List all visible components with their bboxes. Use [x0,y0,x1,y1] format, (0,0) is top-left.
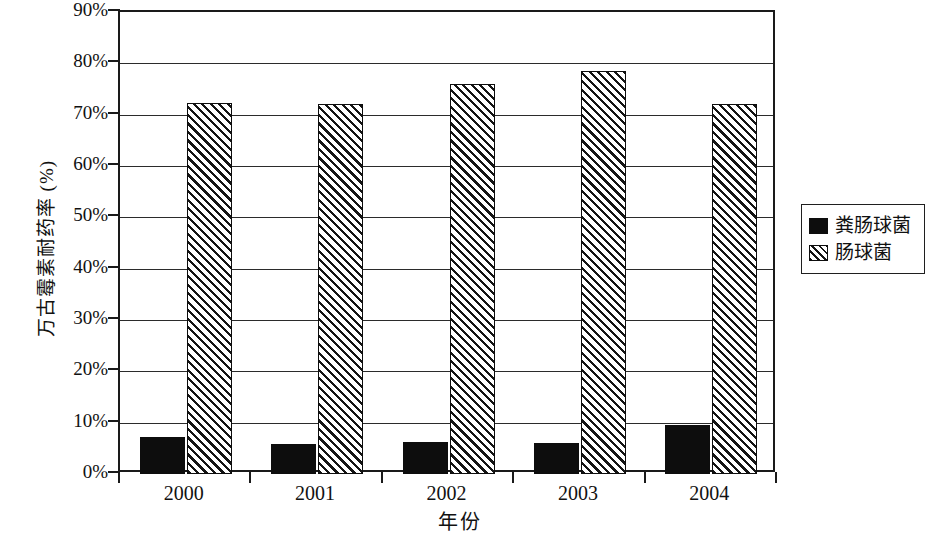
y-axis-tick-label: 0% [46,462,108,481]
y-axis-tick-labels: 0%10%20%30%40%50%60%70%80%90% [40,0,108,537]
bar-肠球菌-2004 [712,104,757,474]
plot-area [118,10,775,472]
y-axis-tick-label: 30% [46,308,108,327]
y-axis-tick-label: 60% [46,154,108,173]
gridline [120,63,773,64]
legend-swatch-hatched-icon [809,245,828,261]
x-axis-tick-label: 2003 [518,482,638,505]
legend-label: 粪肠球菌 [835,216,911,235]
bar-粪肠球菌-2001 [271,444,316,474]
x-axis-tick-label: 2002 [387,482,507,505]
legend-item-粪肠球菌: 粪肠球菌 [809,212,918,239]
legend-item-肠球菌: 肠球菌 [809,239,918,266]
y-axis-tick-label: 10% [46,411,108,430]
bar-chart: 万古霉素耐药率 (%) 0%10%20%30%40%50%60%70%80%90… [0,0,936,537]
x-axis-tick-label: 2001 [255,482,375,505]
x-axis-tick-label: 2000 [124,482,244,505]
bar-粪肠球菌-2000 [140,437,185,474]
x-axis-tick [512,472,514,483]
y-axis-tick-label: 50% [46,205,108,224]
y-axis-tick-label: 40% [46,257,108,276]
x-axis-tick-label: 2004 [649,482,769,505]
y-axis-tick-label: 80% [46,51,108,70]
bar-肠球菌-2001 [318,104,363,474]
legend: 粪肠球菌肠球菌 [801,204,925,274]
bar-肠球菌-2002 [450,84,495,474]
y-axis-tick-label: 90% [46,0,108,19]
bar-粪肠球菌-2002 [403,442,448,474]
bar-粪肠球菌-2004 [665,425,710,474]
legend-label: 肠球菌 [835,243,892,262]
legend-swatch-solid-icon [809,218,828,234]
x-axis-tick [249,472,251,483]
x-axis-tick [775,472,777,483]
y-axis-tick-label: 70% [46,103,108,122]
bar-肠球菌-2000 [187,103,232,474]
x-axis-tick [644,472,646,483]
bar-肠球菌-2003 [581,71,626,474]
y-axis-tick-label: 20% [46,359,108,378]
bar-粪肠球菌-2003 [534,443,579,474]
x-axis-title: 年份 [380,506,540,535]
x-axis-tick [118,472,120,483]
x-axis-tick [381,472,383,483]
